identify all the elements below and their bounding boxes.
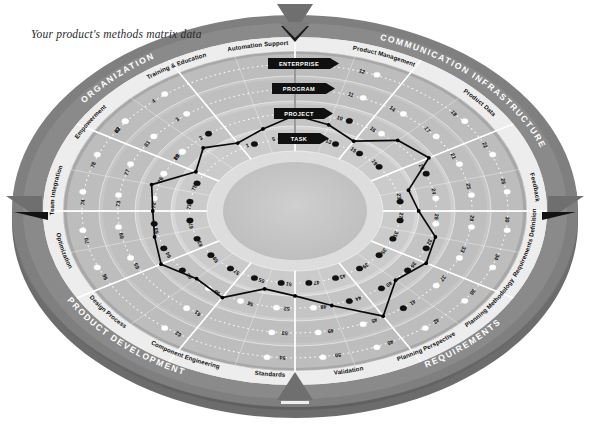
profile-vertex[interactable] (153, 235, 157, 239)
dot-filled[interactable] (397, 218, 404, 223)
dot-filled[interactable] (205, 131, 212, 136)
dot-open[interactable] (122, 119, 129, 124)
profile-vertex[interactable] (427, 156, 431, 160)
dot-filled[interactable] (376, 164, 383, 169)
dot-open[interactable] (400, 111, 407, 116)
cell-number: 70 (83, 237, 90, 244)
dot-filled[interactable] (356, 266, 363, 271)
dot-open[interactable] (127, 255, 134, 260)
profile-vertex[interactable] (263, 287, 267, 291)
dot-filled[interactable] (306, 280, 313, 285)
dot-open[interactable] (320, 355, 327, 360)
dot-open[interactable] (161, 171, 168, 176)
profile-vertex[interactable] (220, 296, 224, 300)
dot-filled[interactable] (161, 246, 168, 251)
dot-open[interactable] (456, 162, 463, 167)
dot-open[interactable] (433, 134, 440, 139)
dot-filled[interactable] (251, 141, 258, 146)
profile-vertex[interactable] (194, 170, 198, 174)
cell-number: 27 (398, 212, 405, 219)
dot-open[interactable] (80, 189, 87, 194)
dot-filled[interactable] (346, 298, 353, 303)
profile-vertex[interactable] (261, 127, 265, 131)
dot-filled[interactable] (332, 141, 339, 146)
dot-open[interactable] (374, 345, 381, 350)
dot-open[interactable] (360, 95, 367, 100)
dot-open[interactable] (489, 265, 496, 270)
dot-open[interactable] (489, 152, 496, 157)
dot-open[interactable] (310, 305, 317, 310)
dot-open[interactable] (161, 91, 168, 96)
profile-vertex[interactable] (293, 294, 297, 298)
dot-open[interactable] (94, 265, 101, 270)
dot-open[interactable] (422, 325, 429, 330)
level-flag-program[interactable]: PROGRAM (272, 83, 335, 94)
dot-filled[interactable] (356, 151, 363, 156)
profile-vertex[interactable] (407, 188, 411, 192)
dot-open[interactable] (461, 119, 468, 124)
profile-vertex[interactable] (159, 262, 163, 266)
dot-open[interactable] (456, 255, 463, 260)
dot-open[interactable] (183, 306, 190, 311)
dot-filled[interactable] (423, 171, 430, 176)
dot-filled[interactable] (187, 199, 194, 204)
profile-vertex[interactable] (327, 123, 331, 127)
dot-open[interactable] (127, 162, 134, 167)
profile-vertex[interactable] (394, 278, 398, 282)
profile-vertex[interactable] (151, 209, 155, 213)
dot-open[interactable] (80, 228, 87, 233)
dot-open[interactable] (237, 298, 244, 303)
cell-number: 50 (335, 352, 342, 359)
profile-vertex[interactable] (381, 314, 385, 318)
profile-vertex[interactable] (330, 304, 334, 308)
cell-number: 73 (115, 200, 122, 207)
profile-vertex[interactable] (396, 138, 400, 142)
dot-open[interactable] (504, 189, 511, 194)
level-flag-project[interactable]: PROJECT (274, 108, 333, 119)
dot-open[interactable] (273, 305, 280, 310)
dot-open[interactable] (504, 228, 511, 233)
level-flag-enterprise[interactable]: ENTERPRISE (268, 58, 339, 69)
dot-filled[interactable] (278, 280, 285, 285)
dot-open[interactable] (183, 111, 190, 116)
dot-filled[interactable] (397, 199, 404, 204)
profile-vertex[interactable] (195, 277, 199, 281)
dot-open[interactable] (115, 224, 122, 229)
dot-filled[interactable] (194, 236, 201, 241)
dot-filled[interactable] (187, 218, 194, 223)
profile-vertex[interactable] (201, 146, 205, 150)
dot-open[interactable] (360, 322, 367, 327)
dot-filled[interactable] (378, 286, 385, 291)
dot-open[interactable] (161, 325, 168, 330)
dot-open[interactable] (433, 283, 440, 288)
dot-filled[interactable] (332, 275, 339, 280)
dot-open[interactable] (432, 221, 439, 226)
profile-vertex[interactable] (417, 209, 421, 213)
dot-open[interactable] (150, 134, 157, 139)
profile-vertex[interactable] (352, 139, 356, 143)
dot-open[interactable] (468, 224, 475, 229)
profile-vertex[interactable] (433, 235, 437, 239)
dot-open[interactable] (374, 72, 381, 77)
dot-filled[interactable] (423, 246, 430, 251)
dot-filled[interactable] (346, 118, 353, 123)
dot-open[interactable] (268, 330, 275, 335)
dot-filled[interactable] (208, 253, 215, 258)
dot-open[interactable] (432, 196, 439, 201)
dot-open[interactable] (179, 149, 186, 154)
level-flag-label: PROJECT (284, 111, 314, 117)
dot-open[interactable] (115, 192, 122, 197)
dot-filled[interactable] (251, 275, 258, 280)
dot-open[interactable] (468, 192, 475, 197)
profile-vertex[interactable] (150, 183, 154, 187)
dot-open[interactable] (378, 131, 385, 136)
dot-filled[interactable] (400, 306, 407, 311)
level-flag-task[interactable]: TASK (278, 133, 329, 144)
profile-vertex[interactable] (236, 141, 240, 145)
profile-vertex[interactable] (424, 261, 428, 265)
dot-open[interactable] (461, 298, 468, 303)
dot-filled[interactable] (227, 266, 234, 271)
dot-open[interactable] (264, 355, 271, 360)
dot-open[interactable] (94, 152, 101, 157)
dot-open[interactable] (315, 330, 322, 335)
